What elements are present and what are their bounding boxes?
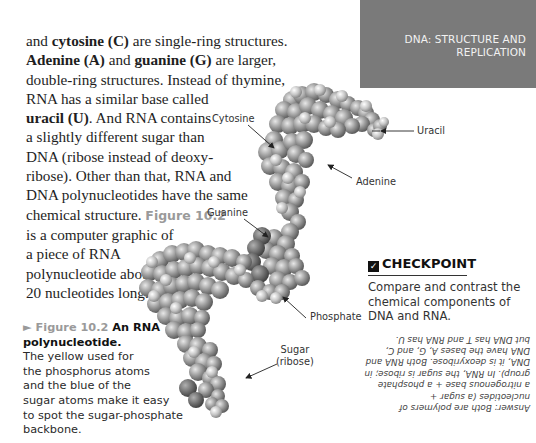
chapter-header-box: DNA: STRUCTURE AND REPLICATION xyxy=(360,0,536,88)
answer-line: DNA have the bases A, G, and C, xyxy=(372,344,530,355)
header-line-2: REPLICATION xyxy=(366,46,526,59)
body-line: double-ring structures. Instead of thymi… xyxy=(26,70,276,89)
term-guanine: guanine (G) xyxy=(134,51,211,68)
body-paragraph: and cytosine (C) are single-ring structu… xyxy=(26,31,276,302)
body-line: is a computer graphic of xyxy=(26,225,276,244)
answer-line: Answer: Both are polymers of xyxy=(372,401,530,412)
label-sugar-line2: (ribose) xyxy=(276,356,314,368)
body-line: polynucleotide about xyxy=(26,264,276,283)
checkpoint-question: Compare and contrast the chemical compon… xyxy=(368,280,530,324)
answer-line: but DNA has T and RNA has U. xyxy=(372,333,530,344)
body-line: ribose). Other than that, RNA and xyxy=(26,166,276,185)
text: . And RNA contains xyxy=(89,109,211,126)
question-line: Compare and contrast the xyxy=(368,280,530,295)
label-phosphate: Phosphate xyxy=(310,311,362,323)
answer-line: nucleotides (a sugar + xyxy=(372,390,530,401)
body-line: a piece of RNA xyxy=(26,244,276,263)
checkpoint-icon: ✓ xyxy=(368,261,379,272)
answer-line: DNA, it is deoxyribose. Both RNA and xyxy=(372,355,530,366)
caption-line: and the blue of the xyxy=(23,379,183,394)
body-line: DNA (ribose instead of deoxy- xyxy=(26,147,276,166)
answer-line: a nitrogenous base + a phosphate xyxy=(372,378,530,389)
body-line: and cytosine (C) are single-ring structu… xyxy=(26,31,276,50)
text: and xyxy=(26,32,52,49)
sugar-leader xyxy=(246,364,277,378)
text: chemical structure. xyxy=(26,206,145,223)
caption-line: to spot the sugar-phosphate xyxy=(23,409,183,424)
label-guanine: Guanine xyxy=(207,207,248,219)
checkpoint-heading: ✓CHECKPOINT xyxy=(368,256,467,276)
label-sugar: Sugar (ribose) xyxy=(276,344,314,368)
label-uracil: Uracil xyxy=(417,125,445,137)
checkpoint-answer-upside-down: Answer: Both are polymers of nucleotides… xyxy=(372,333,530,413)
caption-line: the phosphorus atoms xyxy=(23,365,183,380)
label-cytosine: Cytosine xyxy=(212,113,255,125)
body-line: DNA polynucleotides have the same xyxy=(26,185,276,204)
question-line: chemical components of xyxy=(368,295,530,310)
text: and xyxy=(105,51,135,68)
phosphate-leader xyxy=(283,297,306,318)
label-sugar-line1: Sugar xyxy=(276,344,314,356)
body-line: RNA has a similar base called xyxy=(26,89,276,108)
text: are larger, xyxy=(212,51,276,68)
body-line: 20 nucleotides long. ✓ xyxy=(26,283,276,302)
adenine-leader xyxy=(328,165,352,178)
term-adenine: Adenine (A) xyxy=(26,51,105,68)
question-line: DNA and RNA. xyxy=(368,309,530,324)
text: 20 nucleotides long. xyxy=(26,284,153,301)
caption-title: An RNA xyxy=(108,321,160,334)
caption-line: sugar atoms make it easy xyxy=(23,394,183,409)
caption-title-cont: polynucleotide. xyxy=(23,336,183,351)
caption-line: backbone. xyxy=(23,423,183,438)
caption-title-line: ► Figure 10.2 An RNA xyxy=(23,321,183,336)
answer-line: group). In RNA, the sugar is ribose; in xyxy=(372,367,530,378)
body-line: a slightly different sugar than xyxy=(26,127,276,146)
figure-caption: ► Figure 10.2 An RNA polynucleotide. The… xyxy=(23,321,183,438)
header-line-1: DNA: STRUCTURE AND xyxy=(366,33,526,46)
body-line: Adenine (A) and guanine (G) are larger, xyxy=(26,50,276,69)
checkpoint-title: CHECKPOINT xyxy=(382,256,476,271)
checkpoint-box: ✓CHECKPOINT Compare and contrast the che… xyxy=(368,256,530,412)
label-adenine: Adenine xyxy=(356,176,396,188)
text: are single-ring structures. xyxy=(129,32,288,49)
caption-figure-number: ► Figure 10.2 xyxy=(23,321,108,334)
chapter-header-title: DNA: STRUCTURE AND REPLICATION xyxy=(366,33,526,59)
checkpoint-icon: ✓ xyxy=(153,290,165,302)
term-cytosine: cytosine (C) xyxy=(52,32,129,49)
term-uracil: uracil (U) xyxy=(26,109,89,126)
caption-line: The yellow used for xyxy=(23,350,183,365)
